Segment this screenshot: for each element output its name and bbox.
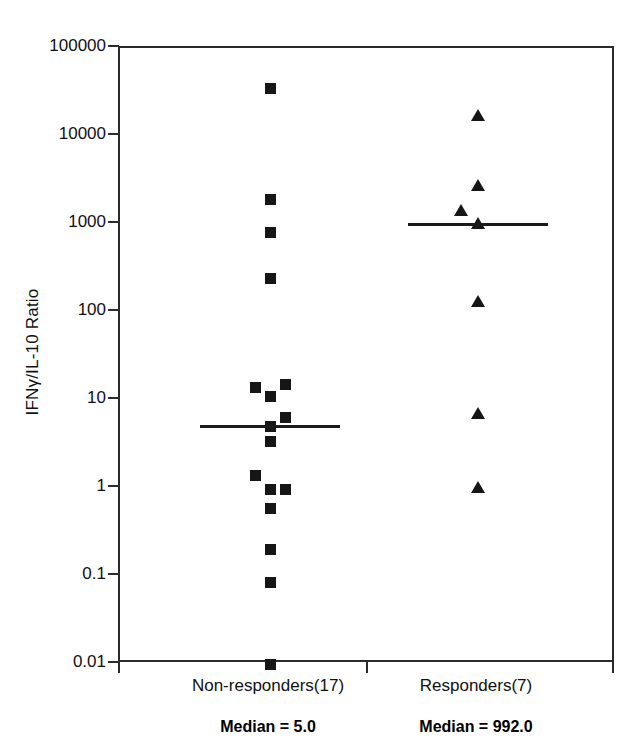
data-point-square [265, 273, 276, 284]
data-point-square [250, 382, 261, 393]
group-label: Responders(7) [346, 676, 606, 696]
plot-area [118, 46, 614, 662]
data-point-square [265, 391, 276, 402]
data-point-triangle [471, 295, 485, 307]
data-point-square [280, 412, 291, 423]
data-point-square [265, 503, 276, 514]
y-axis-tick-label: 1000 [18, 213, 106, 230]
y-axis-tick-label: 10000 [18, 125, 106, 142]
median-line [200, 425, 340, 428]
data-point-square [280, 484, 291, 495]
y-axis-tick-label: 0.1 [18, 565, 106, 582]
y-axis-tick-label: 10 [18, 389, 106, 406]
data-point-square [265, 194, 276, 205]
y-axis-tick-label: 100 [18, 301, 106, 318]
data-point-square [265, 83, 276, 94]
dot-plot-figure: IFNγ/IL-10 Ratio 1000001000010001001010.… [0, 0, 644, 756]
data-point-triangle [471, 179, 485, 191]
data-point-triangle [471, 407, 485, 419]
group-median-label: Median = 992.0 [346, 718, 606, 736]
x-axis-tick-mark [118, 662, 120, 673]
y-axis-tick-label: 1 [18, 477, 106, 494]
y-axis-tick-labels: 1000001000010001001010.10.01 [12, 0, 106, 756]
data-point-square [250, 470, 261, 481]
data-point-square [265, 227, 276, 238]
data-point-square [265, 577, 276, 588]
data-point-square [265, 544, 276, 555]
data-point-square [280, 379, 291, 390]
data-point-triangle [454, 204, 468, 216]
data-point-square [265, 484, 276, 495]
median-line [408, 223, 548, 226]
data-point-triangle [471, 109, 485, 121]
data-point-square [265, 659, 276, 670]
data-point-square [265, 436, 276, 447]
x-axis-tick-mark [612, 662, 614, 673]
data-point-triangle [471, 481, 485, 493]
y-axis-tick-label: 100000 [18, 37, 106, 54]
x-axis-tick-mark [366, 662, 368, 673]
y-axis-tick-label: 0.01 [18, 653, 106, 670]
